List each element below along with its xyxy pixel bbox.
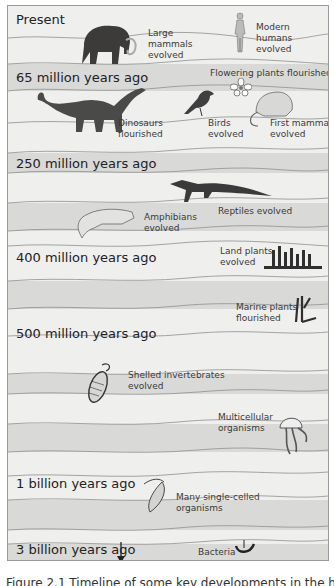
event-flowering-plants: Flowering plants flourished [210,68,329,79]
event-large-mammals: Large mammals evolved [148,28,193,61]
figure-caption: Figure 2.1 Timeline of some key developm… [6,576,334,586]
amphibian-icon [72,204,138,240]
era-label-250-million: 250 million years ago [16,156,156,171]
seaweed-icon [292,294,318,324]
reptile-icon [168,178,274,206]
event-dinosaurs: Dinosaurs flourished [118,118,163,140]
era-label-65-million: 65 million years ago [16,70,148,85]
mammoth-icon [76,20,140,66]
event-multicellular: Multicellular organisms [218,412,273,434]
era-label-1-billion: 1 billion years ago [16,476,136,491]
event-birds: Birds evolved [208,118,243,140]
geologic-timeline: Present 65 million years ago 250 million… [7,5,329,561]
era-label-500-million: 500 million years ago [16,326,156,341]
jellyfish-icon [276,412,312,456]
trilobite-icon [82,361,116,407]
moss-icon [262,244,324,270]
bacterium-icon [234,540,256,556]
event-first-mammals: First mammals evolved [270,118,329,140]
event-bacteria: Bacteria [198,547,235,558]
event-modern-humans: Modern humans evolved [256,22,292,55]
event-marine-plants: Marine plants flourished [236,302,297,324]
era-label-present: Present [16,12,65,27]
down-arrow-icon [116,542,126,561]
event-shelled-invertebrates: Shelled invertebrates evolved [128,370,225,392]
bird-icon [180,88,216,118]
event-reptiles: Reptiles evolved [218,206,292,217]
era-label-400-million: 400 million years ago [16,250,156,265]
protist-icon [142,476,178,516]
event-amphibians: Amphibians evolved [144,212,197,234]
event-single-celled: Many single-celled organisms [176,492,260,514]
human-icon [232,12,248,54]
